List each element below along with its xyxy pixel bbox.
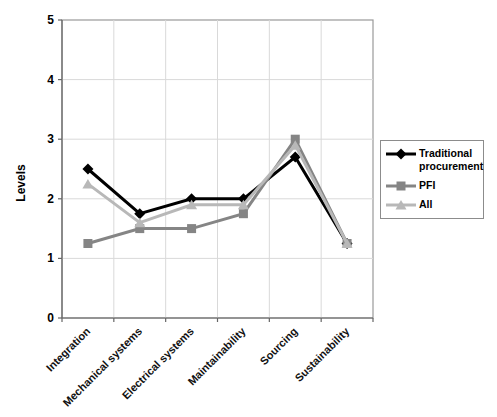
- y-tick-label: 1: [47, 251, 54, 265]
- y-tick-label: 3: [47, 132, 54, 146]
- y-tick-label: 0: [47, 311, 54, 325]
- y-tick-label: 2: [47, 192, 54, 206]
- legend-entry-traditional-procurement: Traditional procurement: [386, 147, 481, 173]
- square-marker-icon: [386, 180, 416, 192]
- x-axis-label: Sustainability: [292, 324, 352, 384]
- legend-entry-pfi: PFI: [386, 179, 481, 192]
- x-axis-label: Sourcing: [257, 325, 299, 367]
- marker-square-pfi: [187, 224, 196, 233]
- legend-entry-all: All: [386, 198, 481, 211]
- legend-label-pfi: PFI: [419, 179, 435, 192]
- legend: Traditional procurementPFIAll: [380, 140, 484, 219]
- legend-label-all: All: [419, 198, 432, 211]
- marker-square-pfi-legend: [397, 182, 406, 191]
- y-tick-label: 4: [47, 73, 54, 87]
- line-chart: 012345IntegrationMechanical systemsElect…: [0, 0, 497, 417]
- marker-square-pfi: [239, 209, 248, 218]
- x-axis-label: Integration: [44, 325, 93, 374]
- marker-diamond-traditional-procurement-legend: [396, 149, 407, 160]
- legend-label-traditional-procurement: Traditional procurement: [419, 147, 483, 173]
- triangle-marker-icon: [386, 199, 416, 211]
- diamond-marker-icon: [386, 148, 416, 160]
- marker-square-pfi: [83, 239, 92, 248]
- y-axis-title: Levels: [14, 164, 28, 201]
- y-tick-label: 5: [47, 13, 54, 27]
